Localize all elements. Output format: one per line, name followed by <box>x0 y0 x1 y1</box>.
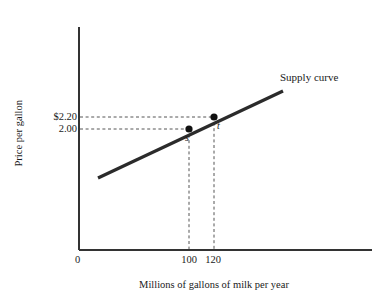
supply-curve-label: Supply curve <box>280 72 338 83</box>
supply-curve-line <box>98 91 283 178</box>
point-label-s: s <box>185 133 189 143</box>
x-tick-label-120: 120 <box>198 255 228 266</box>
y-tick-label-200: 2.00 <box>59 124 77 135</box>
point-label-t: t <box>217 121 220 131</box>
x-axis-title: Millions of gallons of milk per year <box>0 280 390 291</box>
origin-label: 0 <box>75 255 80 266</box>
y-axis-title: Price per gallon <box>14 78 25 188</box>
supply-curve-figure: $2.20 2.00 100 120 0 s t Supply curve Mi… <box>0 0 390 299</box>
y-tick-label-220: $2.20 <box>53 112 77 123</box>
